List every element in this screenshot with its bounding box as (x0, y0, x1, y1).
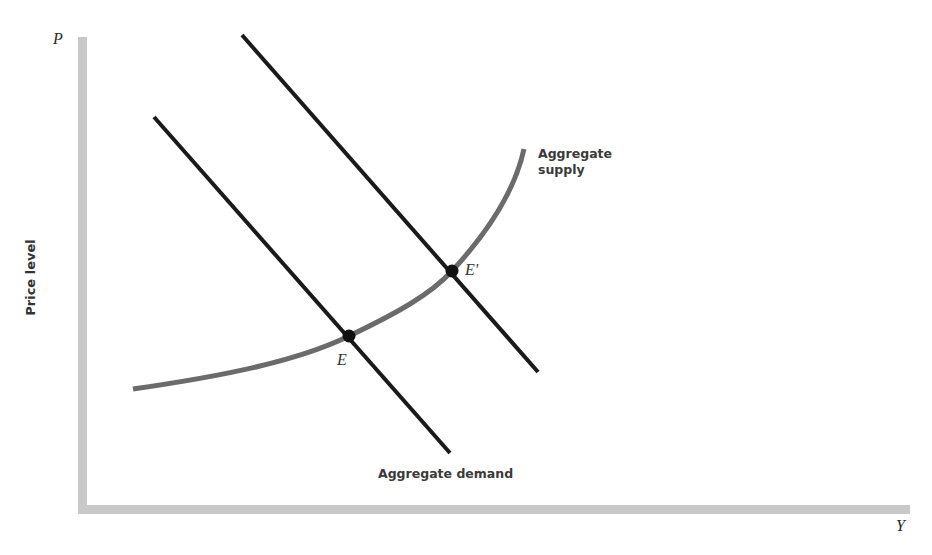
y-axis-label: Price level (23, 238, 38, 318)
aggregate-supply-label: Aggregate supply (538, 146, 612, 178)
x-axis (78, 505, 910, 514)
point-label-e-prime: E' (465, 261, 478, 279)
y-axis (78, 37, 87, 513)
aggregate-supply-demand-chart: P Y Price level E E' Aggregate supply Ag… (0, 0, 932, 555)
aggregate-demand-shifted-line (242, 35, 538, 372)
aggregate-supply-label-line2: supply (538, 162, 612, 178)
y-axis-symbol: P (53, 30, 63, 48)
equilibrium-point-e (343, 330, 356, 343)
aggregate-demand-label: Aggregate demand (378, 466, 513, 482)
equilibrium-point-e-prime (446, 265, 459, 278)
x-axis-symbol: Y (896, 517, 905, 535)
aggregate-demand-line (154, 117, 450, 453)
point-label-e: E (337, 351, 347, 369)
aggregate-supply-label-line1: Aggregate (538, 146, 612, 162)
